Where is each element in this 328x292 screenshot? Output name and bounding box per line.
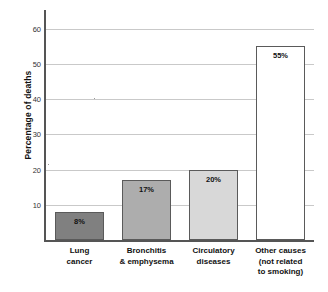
- y-tick-label-50: 50: [33, 59, 41, 68]
- gridline-60: [46, 29, 314, 30]
- x-category-label-1: Bronchitis& emphysema: [109, 246, 184, 267]
- y-tick-label-40: 40: [33, 95, 41, 104]
- bar-value-label-3: 55%: [257, 51, 304, 60]
- bar-value-label-0: 8%: [56, 217, 103, 226]
- bar-3: 55%: [256, 46, 305, 240]
- y-tick-label-20: 20: [33, 165, 41, 174]
- bar-chart: Percentage of deaths 102030405060 8%17%2…: [0, 0, 328, 292]
- y-axis-title: Percentage of deaths: [23, 35, 33, 195]
- scan-speck: [94, 98, 95, 99]
- bar-value-label-2: 20%: [190, 175, 237, 184]
- y-tick-label-30: 30: [33, 130, 41, 139]
- bar-2: 20%: [189, 170, 238, 240]
- bar-1: 17%: [122, 180, 171, 240]
- bar-value-label-1: 17%: [123, 185, 170, 194]
- plot-area: 102030405060 8%17%20%55%: [46, 18, 314, 240]
- scan-speck: [48, 164, 49, 165]
- y-tick-label-10: 10: [33, 200, 41, 209]
- y-tick-label-60: 60: [33, 24, 41, 33]
- x-category-label-3: Other causes(not relatedto smoking): [243, 246, 318, 278]
- x-category-label-0: Lungcancer: [42, 246, 117, 267]
- x-category-label-2: Circulatorydiseases: [176, 246, 251, 267]
- bar-0: 8%: [55, 212, 104, 240]
- x-axis-line: [44, 240, 314, 242]
